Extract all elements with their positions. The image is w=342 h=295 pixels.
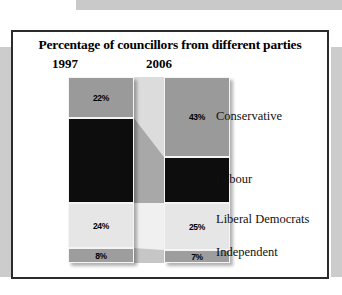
segment-conservative-1997[interactable]: 22% (68, 77, 134, 118)
right-decoration-band (331, 47, 342, 277)
chart-panel: Percentage of councillors from different… (11, 30, 329, 279)
segment-label-independent-2006: 7% (191, 252, 203, 262)
plot-area: 22% 24% 8% 43% 25% 7% (21, 77, 207, 269)
column-header-1997: 1997 (25, 56, 105, 72)
segment-labour-1997[interactable] (68, 118, 134, 203)
legend-item-labour: Labour (216, 172, 252, 187)
top-decoration-band (76, 0, 342, 10)
legend-item-conservative: Conservative (216, 109, 282, 124)
left-decoration-band (0, 47, 11, 277)
segment-label-conservative-2006: 43% (189, 112, 205, 122)
segment-label-liberal-democrats-1997: 24% (93, 221, 109, 231)
segment-label-conservative-1997: 22% (93, 93, 109, 103)
stacked-column-1997[interactable]: 22% 24% 8% (68, 77, 134, 263)
chart-title: Percentage of councillors from different… (13, 37, 327, 53)
legend-item-independent: Independent (216, 245, 278, 260)
legend-item-liberal-democrats: Liberal Democrats (216, 212, 309, 227)
segment-label-independent-1997: 8% (95, 251, 107, 261)
segment-liberal-democrats-1997[interactable]: 24% (68, 203, 134, 248)
legend: Conservative Labour Liberal Democrats In… (216, 77, 328, 272)
segment-independent-1997[interactable]: 8% (68, 248, 134, 263)
column-header-2006: 2006 (119, 56, 199, 72)
segment-label-liberal-democrats-2006: 25% (189, 222, 205, 232)
